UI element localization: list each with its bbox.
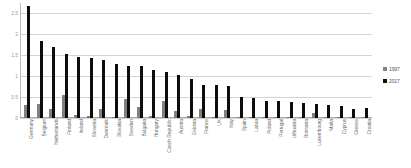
bar-group[interactable] — [34, 3, 47, 118]
chart-legend: 19972017 — [383, 66, 400, 84]
x-axis-label-slot: Spain — [234, 119, 247, 168]
bar-2017[interactable] — [40, 41, 43, 118]
y-axis-tick-label: 2.5 — [11, 10, 18, 16]
x-axis-label-slot: UK — [209, 119, 222, 168]
legend-swatch-icon — [383, 79, 387, 83]
bar-2017[interactable] — [327, 105, 330, 118]
x-axis-label-slot: Croatia — [359, 119, 372, 168]
bar-2017[interactable] — [365, 108, 368, 118]
legend-swatch-icon — [383, 67, 387, 71]
bar-2017[interactable] — [352, 109, 355, 118]
bar-group[interactable] — [334, 3, 347, 118]
bar-group[interactable] — [159, 3, 172, 118]
bar-group[interactable] — [171, 3, 184, 118]
x-axis-label-slot: Netherlands — [46, 119, 59, 168]
bar-group[interactable] — [84, 3, 97, 118]
bar-2017[interactable] — [315, 104, 318, 118]
x-axis-label-slot: Bulgaria — [134, 119, 147, 168]
x-axis-label-slot: Slovenia — [84, 119, 97, 168]
y-axis-tick-label: 0 — [15, 115, 18, 121]
bar-group[interactable] — [271, 3, 284, 118]
bar-group[interactable] — [46, 3, 59, 118]
bar-group[interactable] — [346, 3, 359, 118]
bar-group[interactable] — [59, 3, 72, 118]
bar-2017[interactable] — [277, 101, 280, 118]
legend-item[interactable]: 1997 — [383, 66, 400, 72]
bar-group[interactable] — [234, 3, 247, 118]
bar-2017[interactable] — [152, 70, 155, 118]
bar-2017[interactable] — [252, 98, 255, 118]
bar-2017[interactable] — [140, 66, 143, 118]
x-axis-label-slot: Sweden — [121, 119, 134, 168]
bar-2017[interactable] — [177, 75, 180, 118]
x-axis-label-slot: Lithuania — [284, 119, 297, 168]
y-axis: 00.511.522.5 — [0, 3, 20, 118]
bar-2017[interactable] — [65, 54, 68, 118]
x-axis-label-slot: Estonia — [184, 119, 197, 168]
bar-2017[interactable] — [215, 85, 218, 118]
y-axis-tick-label: 0.5 — [11, 94, 18, 100]
legend-item[interactable]: 2017 — [383, 78, 400, 84]
bar-2017[interactable] — [52, 47, 55, 118]
bar-group[interactable] — [246, 3, 259, 118]
bar-group[interactable] — [296, 3, 309, 118]
x-axis-label-slot: Slovakia — [109, 119, 122, 168]
bar-chart: 00.511.522.5 GermanyBelgiumNetherlandsFi… — [0, 0, 411, 168]
bar-2017[interactable] — [227, 86, 230, 118]
x-axis-label-slot: Cyprus — [334, 119, 347, 168]
bar-group[interactable] — [196, 3, 209, 118]
y-axis-tick-label: 2 — [15, 31, 18, 37]
x-axis-label-slot: Greece — [346, 119, 359, 168]
x-axis-label-slot: Germany — [21, 119, 34, 168]
x-axis-label-slot: Austria — [171, 119, 184, 168]
x-axis-tick-label: Croatia — [367, 119, 372, 134]
bar-2017[interactable] — [90, 58, 93, 118]
x-axis-label-slot: Latvia — [246, 119, 259, 168]
x-axis-label-slot: Italy — [221, 119, 234, 168]
bar-2017[interactable] — [340, 106, 343, 118]
bar-group[interactable] — [109, 3, 122, 118]
x-axis-label-slot: Malta — [321, 119, 334, 168]
bar-2017[interactable] — [302, 103, 305, 118]
bar-group[interactable] — [121, 3, 134, 118]
bar-group[interactable] — [209, 3, 222, 118]
bar-2017[interactable] — [202, 85, 205, 118]
legend-label: 2017 — [389, 78, 400, 84]
x-axis-label-slot: Belgium — [34, 119, 47, 168]
x-axis-label-slot: Portugal — [271, 119, 284, 168]
x-axis-label-slot: Denmark — [96, 119, 109, 168]
bar-group[interactable] — [146, 3, 159, 118]
bar-group[interactable] — [71, 3, 84, 118]
bar-group[interactable] — [259, 3, 272, 118]
bar-group[interactable] — [359, 3, 372, 118]
bar-group[interactable] — [184, 3, 197, 118]
bar-group[interactable] — [221, 3, 234, 118]
bar-2017[interactable] — [27, 6, 30, 118]
bar-2017[interactable] — [127, 66, 130, 118]
x-axis-label-slot: Luxembourg — [309, 119, 322, 168]
x-axis-label-slot: Poland — [259, 119, 272, 168]
y-axis-tick-label: 1.5 — [11, 52, 18, 58]
x-axis-label-slot: Hungary — [146, 119, 159, 168]
bar-group[interactable] — [321, 3, 334, 118]
bar-2017[interactable] — [102, 60, 105, 118]
bar-2017[interactable] — [115, 64, 118, 118]
x-axis-label-slot: Finland — [59, 119, 72, 168]
bar-group[interactable] — [284, 3, 297, 118]
bar-2017[interactable] — [265, 101, 268, 118]
bar-group[interactable] — [309, 3, 322, 118]
bar-group[interactable] — [96, 3, 109, 118]
bar-group[interactable] — [21, 3, 34, 118]
y-axis-tick-label: 1 — [15, 73, 18, 79]
plot-area — [20, 3, 372, 118]
bar-2017[interactable] — [290, 102, 293, 118]
bar-2017[interactable] — [165, 72, 168, 118]
bars-layer — [20, 3, 372, 118]
bar-2017[interactable] — [190, 79, 193, 118]
bar-2017[interactable] — [77, 57, 80, 118]
bar-group[interactable] — [134, 3, 147, 118]
bar-2017[interactable] — [240, 97, 243, 118]
x-axis-label-slot: Czech Republic — [159, 119, 172, 168]
x-axis-labels: GermanyBelgiumNetherlandsFinlandIrelandS… — [20, 119, 372, 168]
x-axis-label-slot: France — [196, 119, 209, 168]
